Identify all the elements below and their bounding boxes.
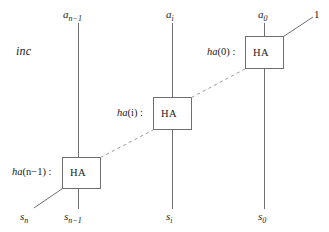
box-label-ha-n-1: HA xyxy=(70,167,86,178)
gate-name-ha-n-1: ha(n−1) : xyxy=(12,167,51,178)
wire-carry-chain-0-to-i xyxy=(192,69,246,98)
wire-carry-out-s-n xyxy=(34,189,63,209)
wire-carry-chain-i-to-n-1 xyxy=(101,130,154,158)
gate-name-ha-0: ha(0) : xyxy=(207,47,235,58)
signal-label-a-0: a0 xyxy=(258,9,268,20)
diagram-title-inc: inc xyxy=(16,44,31,59)
half-adder-chain-diagram: inc an−1 ha(n−1) : HA sn sn−1 ai ha(i) :… xyxy=(0,0,329,232)
wire-carry-in-constant-one xyxy=(284,17,314,37)
signal-label-s-i: si xyxy=(166,211,173,222)
box-label-ha-i: HA xyxy=(161,108,177,119)
signal-label-s-n-1: sn−1 xyxy=(64,211,82,222)
signal-label-s-0: s0 xyxy=(258,211,266,222)
constant-one-label: 1 xyxy=(314,8,320,20)
signal-label-s-n: sn xyxy=(20,211,28,222)
signal-label-a-n-1: an−1 xyxy=(63,9,82,20)
signal-label-a-i: ai xyxy=(166,9,174,20)
gate-name-ha-i: ha(i) : xyxy=(117,108,143,119)
box-label-ha-0: HA xyxy=(253,47,269,58)
